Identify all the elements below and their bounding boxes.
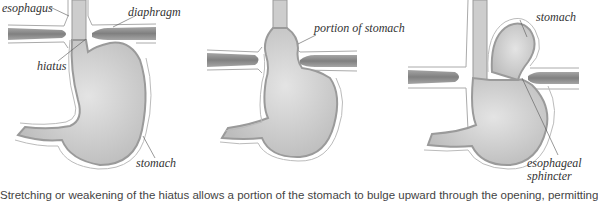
label-stomach: stomach <box>136 157 176 169</box>
label-esophagus: esophagus <box>2 2 53 14</box>
herniated-stomach <box>222 28 337 157</box>
label-diaphragm: diaphragm <box>128 6 181 18</box>
diaphragm-left <box>8 28 66 40</box>
label-esophageal: esophageal <box>527 157 582 169</box>
stomach-lower <box>428 78 547 165</box>
label-portion-of-stomach: portion of stomach <box>314 22 405 34</box>
diaphragm-right <box>92 27 156 40</box>
label-hiatus: hiatus <box>37 60 66 72</box>
panel-paraesophageal <box>408 0 579 169</box>
hiatal-hernia-illustration <box>0 0 579 190</box>
label-stomach-herniated: stomach <box>536 11 576 23</box>
esophagus <box>72 0 86 45</box>
label-sphincter: sphincter <box>527 170 572 182</box>
herniated-fundus <box>492 23 535 80</box>
panel-normal <box>8 0 156 169</box>
figure-caption: Stretching or weakening of the hiatus al… <box>0 189 579 201</box>
